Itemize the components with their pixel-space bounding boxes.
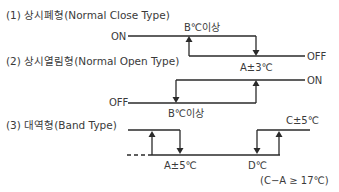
section-title: (1) 상시폐형(Normal Close Type) — [6, 9, 170, 21]
arrow-up-icon — [186, 36, 193, 42]
off-label: OFF — [307, 51, 327, 62]
d-point-label: D℃ — [248, 160, 267, 171]
condition-label: (C−A ≥ 17℃) — [260, 175, 329, 186]
arrow-down-icon — [254, 148, 261, 154]
threshold-high-label: B℃이상 — [168, 108, 204, 119]
arrow-up-icon — [276, 131, 283, 137]
arrow-up-icon — [253, 80, 260, 86]
threshold-high-label: B℃이상 — [184, 22, 220, 33]
section-title: (2) 상시열림형(Normal Open Type) — [6, 55, 179, 67]
section-band: (3) 대역형(Band Type) A±5℃ D℃ C±5℃ (C−A ≥ 1… — [6, 115, 329, 186]
low-point-label: A±5℃ — [164, 160, 197, 171]
arrow-down-icon — [173, 97, 180, 103]
arrow-down-icon — [253, 50, 260, 56]
on-label: ON — [111, 31, 126, 42]
section-normal-open: (2) 상시열림형(Normal Open Type) ON OFF B℃이상 — [6, 55, 322, 119]
arrow-down-icon — [177, 148, 184, 154]
high-point-label: C±5℃ — [286, 115, 319, 126]
off-label: OFF — [109, 97, 129, 108]
thermostat-switching-diagram: (1) 상시폐형(Normal Close Type) ON OFF B℃이상 … — [0, 0, 339, 192]
threshold-low-label: A±3℃ — [240, 62, 273, 73]
arrow-up-icon — [149, 131, 156, 137]
on-label: ON — [307, 75, 322, 86]
section-title: (3) 대역형(Band Type) — [6, 119, 117, 131]
